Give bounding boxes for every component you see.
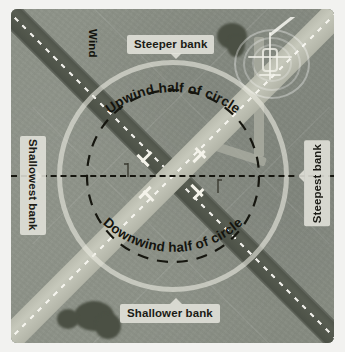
- steepest-bank-label: Steepest bank: [304, 140, 330, 226]
- downwind-half-text: Downwind half of circle: [100, 214, 245, 254]
- shallower-bank-label: Shallower bank: [120, 304, 220, 323]
- steeper-bank-pointer: [170, 53, 182, 59]
- steeper-bank-label: Steeper bank: [127, 35, 214, 54]
- shallowest-bank-label: Shallowest bank: [20, 136, 46, 235]
- wind-label: Wind: [87, 29, 99, 58]
- aerial-photo-plate: Upwind half of circle Downwind half of c…: [11, 9, 334, 343]
- downwind-half-label: Downwind half of circle: [43, 46, 303, 306]
- shallowest-bank-pointer: [36, 170, 42, 182]
- diagram-canvas: Upwind half of circle Downwind half of c…: [0, 0, 345, 352]
- tree-cluster: [57, 309, 79, 329]
- tree-cluster: [95, 313, 121, 339]
